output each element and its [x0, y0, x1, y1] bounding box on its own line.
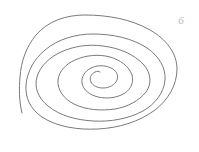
- drawing-canvas: 6: [0, 0, 199, 152]
- spiral-illustration: [0, 0, 199, 152]
- corner-pencil-mark: 6: [174, 12, 188, 28]
